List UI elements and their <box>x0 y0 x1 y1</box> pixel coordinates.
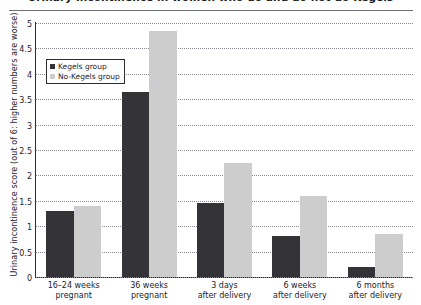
bar-kegels <box>197 203 225 277</box>
x-axis-category-line: 16–24 weeks <box>36 281 111 291</box>
chart-title: Urinary incontinence in women who do and… <box>0 0 421 3</box>
x-axis-category-line: pregnant <box>36 291 111 301</box>
chart-legend: Kegels group No-Kegels group <box>46 59 125 84</box>
x-axis-category-line: 36 weeks <box>111 281 186 291</box>
x-axis-category-label: 6 weeksafter delivery <box>262 281 337 300</box>
y-axis-tick-label: 2 <box>27 172 32 181</box>
x-axis-category-label: 6 monthsafter delivery <box>338 281 413 300</box>
y-axis-tick-label: 1.5 <box>19 197 32 206</box>
bar-group <box>338 23 413 277</box>
x-axis-category-line: after delivery <box>338 291 413 301</box>
x-axis-category-line: 6 months <box>338 281 413 291</box>
x-axis-category-line: after delivery <box>187 291 262 301</box>
y-axis-tick-label: 0.5 <box>19 248 32 257</box>
title-divider <box>9 10 413 11</box>
legend-item-kegels: Kegels group <box>50 62 120 72</box>
legend-swatch-icon-no-kegels <box>50 74 55 79</box>
x-axis-category-line: 6 weeks <box>262 281 337 291</box>
x-axis-category-label: 3 daysafter delivery <box>187 281 262 300</box>
y-axis-tick-label: 3.5 <box>19 96 32 105</box>
y-axis-tick-label: 4.5 <box>19 45 32 54</box>
bar-no-kegels <box>300 196 328 277</box>
legend-swatch-icon-kegels <box>50 64 55 69</box>
bar-no-kegels <box>149 31 177 277</box>
y-axis-tick-label: 0 <box>27 274 32 283</box>
y-axis-tick-label: 5 <box>27 20 32 29</box>
legend-label-kegels: Kegels group <box>58 62 107 72</box>
y-axis-tick-label: 4 <box>27 70 32 79</box>
bar-no-kegels <box>74 206 102 277</box>
gridline: 0 <box>36 277 413 278</box>
bar-group <box>187 23 262 277</box>
legend-label-no-kegels: No-Kegels group <box>58 72 120 82</box>
bar-no-kegels <box>375 234 403 277</box>
bar-kegels <box>272 236 300 277</box>
y-axis-tick-label: 3 <box>27 121 32 130</box>
x-axis-category-line: pregnant <box>111 291 186 301</box>
bar-kegels <box>122 92 150 277</box>
y-axis-tick-label: 2.5 <box>19 147 32 156</box>
chart-figure: Urinary incontinence in women who do and… <box>0 0 421 305</box>
bar-group <box>262 23 337 277</box>
x-axis-category-line: after delivery <box>262 291 337 301</box>
bar-kegels <box>46 211 74 277</box>
bar-kegels <box>348 267 376 277</box>
chart-title-clipped: Urinary incontinence in women who do and… <box>0 0 421 9</box>
bar-no-kegels <box>224 163 252 277</box>
legend-item-no-kegels: No-Kegels group <box>50 72 120 82</box>
y-axis-title: Urinary incontinence score (out of 6: hi… <box>10 11 19 279</box>
y-axis-tick-label: 1 <box>27 223 32 232</box>
x-axis-category-label: 16–24 weekspregnant <box>36 281 111 300</box>
x-axis-category-line: 3 days <box>187 281 262 291</box>
x-axis-category-label: 36 weekspregnant <box>111 281 186 300</box>
